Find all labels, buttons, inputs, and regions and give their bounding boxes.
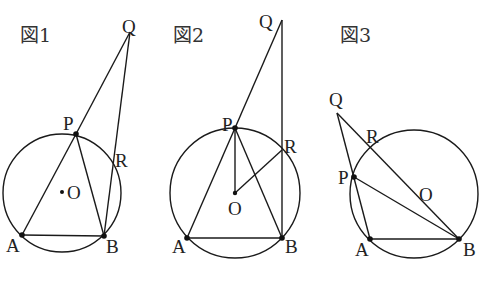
segment-ab [22,235,104,236]
label-q: Q [122,16,136,37]
point-p [73,131,79,137]
segment-pq [235,20,282,128]
label-b: B [106,236,119,257]
point-a [19,232,25,238]
label-p: P [338,167,349,188]
label-a: A [6,235,20,256]
segment-pb [354,177,459,239]
figure-1: 図1 Q P R O A B [3,16,136,257]
label-p: P [222,114,233,135]
label-o: O [419,184,433,205]
geometry-figures: 図1 Q P R O A B 図2 Q P R O A [0,0,495,294]
point-p [351,174,357,180]
point-p [232,125,238,131]
label-b: B [285,236,298,257]
label-b: B [463,239,476,260]
figure-1-caption: 図1 [20,24,51,46]
segment-qb [104,32,130,236]
figure-2: 図2 Q P R O A B [170,11,300,258]
label-r: R [284,136,297,157]
label-o: O [67,182,81,203]
label-o: O [228,198,242,219]
segment-ap [187,128,235,238]
label-a: A [355,239,369,260]
label-r: R [366,126,379,147]
segment-or [235,150,282,193]
figure-2-caption: 図2 [173,24,204,46]
point-b [279,235,285,241]
label-p: P [63,113,74,134]
point-o [233,191,237,195]
label-a: A [172,236,186,257]
segment-pb [235,128,282,238]
point-b [456,236,462,242]
label-q: Q [259,11,273,32]
figure-3-caption: 図3 [340,24,371,46]
label-q: Q [329,89,343,110]
figure-3: 図3 Q R P O A B [329,24,478,260]
label-r: R [115,150,128,171]
point-o [60,190,64,194]
segment-pq [76,32,130,134]
